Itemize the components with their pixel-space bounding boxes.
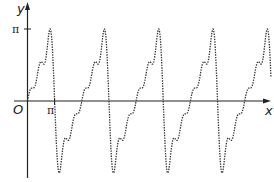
origin-label: O: [13, 102, 23, 117]
x-axis-label: x: [264, 103, 273, 118]
y-axis-arrow-icon: [25, 2, 30, 10]
chart-canvas: y x O π π: [0, 0, 274, 182]
y-tick-label-pi: π: [12, 23, 19, 36]
x-tick-label-pi: π: [47, 104, 54, 117]
y-axis-label: y: [16, 1, 25, 16]
